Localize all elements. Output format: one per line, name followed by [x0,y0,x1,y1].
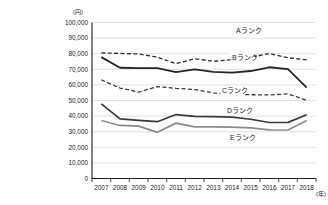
x-tick-label: 2007 [94,184,109,191]
y-tick-label: 90,000 [68,34,88,41]
x-tick-label: 2015 [244,184,259,191]
series-label-Dランク: Dランク [227,107,253,114]
x-tick-label: 2008 [113,184,128,191]
x-tick-label: 2012 [188,184,203,191]
series-label-Aランク: Aランク [236,27,262,34]
line-chart: 010,00020,00030,00040,00050,00060,00070,… [0,0,328,205]
chart-background [0,0,328,205]
y-tick-label: 0 [84,175,88,182]
y-tick-label: 10,000 [68,159,88,166]
y-axis-unit-label: (円) [73,9,83,16]
y-tick-label: 70,000 [68,66,88,73]
x-tick-label: 2010 [150,184,165,191]
x-tick-label: 2014 [225,184,240,191]
x-tick-label: 2013 [206,184,221,191]
x-tick-label: 2018 [300,184,315,191]
y-tick-label: 20,000 [68,144,88,151]
x-tick-label: 2016 [262,184,277,191]
y-tick-label: 30,000 [68,128,88,135]
y-tick-label: 80,000 [68,50,88,57]
y-tick-label: 100,000 [65,19,89,26]
y-tick-label: 60,000 [68,81,88,88]
x-axis-unit-label: (年) [316,190,326,198]
series-label-Bランク: Bランク [232,54,258,61]
series-label-Eランク: Eランク [230,134,256,141]
x-tick-label: 2009 [132,184,147,191]
x-tick-label: 2017 [281,184,296,191]
chart-container: 010,00020,00030,00040,00050,00060,00070,… [0,0,328,205]
y-tick-label: 50,000 [68,97,88,104]
x-tick-label: 2011 [169,184,183,191]
y-tick-label: 40,000 [68,112,88,119]
series-label-Cランク: Cランク [222,87,248,94]
